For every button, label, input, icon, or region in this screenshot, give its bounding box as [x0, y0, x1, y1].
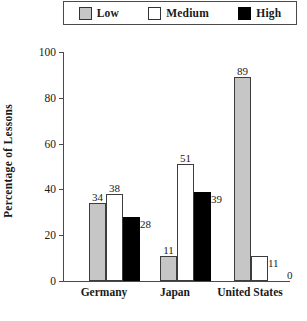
- bar-germany-medium: 38: [106, 194, 123, 281]
- category-label-germany: Germany: [81, 286, 128, 298]
- bar-united-states-medium: 11: [251, 256, 268, 281]
- category-label-japan: Japan: [160, 286, 190, 298]
- chart-legend: Low Medium High: [63, 1, 297, 25]
- bar-value-label: 89: [237, 65, 248, 77]
- y-tick-label-40: 40: [45, 183, 57, 195]
- y-tick-label-100: 100: [39, 46, 56, 58]
- bar-germany-high: 28: [123, 217, 140, 281]
- bar-japan-high: 39: [194, 192, 211, 281]
- legend-label-low: Low: [97, 7, 119, 19]
- y-tick-mark-60: [59, 144, 63, 145]
- white-swatch-icon: [148, 7, 161, 20]
- plot-area: 020406080100 34382811513989110: [63, 52, 290, 282]
- bar-value-label: 38: [109, 182, 120, 194]
- y-tick-label-0: 0: [50, 275, 56, 287]
- y-tick-label-20: 20: [45, 229, 57, 241]
- legend-item-medium: Medium: [148, 7, 209, 20]
- bar-united-states-low: 89: [234, 77, 251, 281]
- black-swatch-icon: [238, 7, 251, 20]
- y-tick-mark-100: [59, 52, 63, 53]
- y-tick-mark-80: [59, 98, 63, 99]
- legend-item-high: High: [238, 7, 281, 20]
- legend-label-high: High: [256, 7, 281, 19]
- y-tick-label-60: 60: [45, 138, 57, 150]
- y-tick-mark-20: [59, 235, 63, 236]
- y-tick-mark-40: [59, 189, 63, 190]
- y-axis-title: Percentage of Lessons: [2, 103, 14, 217]
- bar-value-label: 34: [92, 191, 103, 203]
- bar-japan-medium: 51: [177, 164, 194, 281]
- bar-value-label: 51: [180, 152, 191, 164]
- y-tick-mark-0: [59, 281, 63, 282]
- x-axis-line: [63, 281, 290, 282]
- bar-value-label: 11: [163, 244, 174, 256]
- legend-label-medium: Medium: [166, 7, 209, 19]
- y-tick-label-80: 80: [45, 92, 57, 104]
- bar-value-label: 39: [211, 193, 222, 205]
- bar-value-label: 11: [268, 257, 279, 269]
- bars-layer: 34382811513989110: [64, 52, 290, 281]
- bar-japan-low: 11: [160, 256, 177, 281]
- bar-value-label: 0: [287, 269, 293, 281]
- gray-swatch-icon: [79, 7, 92, 20]
- legend-item-low: Low: [79, 7, 119, 20]
- category-label-united-states: United States: [217, 286, 283, 298]
- bar-germany-low: 34: [89, 203, 106, 281]
- bar-value-label: 28: [140, 218, 151, 230]
